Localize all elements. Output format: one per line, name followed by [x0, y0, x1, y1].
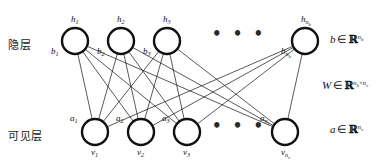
label-vn-bias: anv — [260, 113, 270, 123]
annotation-weights: W∈ℝnh×nv — [322, 79, 368, 92]
edge-h1-vn — [87, 46, 273, 127]
edge-h2-vn — [132, 47, 273, 125]
hidden-layer-ellipsis: • • • — [212, 27, 266, 42]
real-set-symbol: ℝ — [349, 123, 358, 136]
visible-node-v1[interactable] — [82, 119, 108, 145]
label-vn-bottom: vnv — [281, 147, 290, 157]
annotation-variable: b — [330, 33, 336, 45]
element-of-icon: ∈ — [336, 123, 349, 135]
element-of-icon: ∈ — [331, 79, 344, 91]
label-h3-top: h3 — [163, 14, 171, 24]
annotation-variable: W — [322, 79, 331, 91]
visible-node-v2[interactable] — [128, 119, 154, 145]
real-set-symbol: ℝ — [344, 79, 353, 92]
label-hn-bias: bnh — [281, 46, 291, 56]
annotation-variable: a — [330, 123, 336, 135]
hidden-layer-name: 隐层 — [8, 36, 31, 52]
label-v1-bottom: v1 — [91, 147, 98, 157]
label-h2-bias: b2 — [97, 46, 105, 56]
hidden-node-h3[interactable] — [154, 28, 180, 54]
edge-hn-v2 — [152, 47, 293, 125]
edge-hn-vn — [288, 54, 302, 120]
visible-layer-name: 可见层 — [8, 127, 43, 143]
visible-node-v3[interactable] — [174, 119, 200, 145]
annotation-bias-visible: a∈ℝnv — [330, 123, 363, 136]
real-set-symbol: ℝ — [349, 33, 358, 46]
label-v2-bias: a2 — [116, 113, 124, 123]
edge-h2-v1 — [99, 54, 118, 120]
label-h2-top: h2 — [117, 14, 125, 24]
label-hn-top: hnh — [301, 14, 311, 24]
visible-layer-ellipsis: • • • — [212, 119, 266, 134]
edge-h1-v1 — [78, 54, 92, 120]
rbm-diagram-figure: 隐层 可见层 • • • • • • h1b1h2b2h3b3hnhbnhv1a… — [0, 0, 390, 165]
label-v3-bias: a3 — [162, 113, 170, 123]
label-h1-bias: b1 — [51, 46, 59, 56]
element-of-icon: ∈ — [336, 33, 349, 45]
label-v2-bottom: v2 — [137, 147, 144, 157]
visible-node-vn[interactable] — [272, 119, 298, 145]
hidden-node-h1[interactable] — [62, 28, 88, 54]
label-h1-top: h1 — [71, 14, 79, 24]
hidden-node-h2[interactable] — [108, 28, 134, 54]
edge-h3-v1 — [103, 51, 159, 122]
hidden-node-hn[interactable] — [292, 28, 318, 54]
edge-hn-v3 — [197, 49, 294, 124]
label-v1-bias: a1 — [70, 113, 78, 123]
label-v3-bottom: v3 — [183, 147, 190, 157]
label-h3-bias: b3 — [143, 46, 151, 56]
annotation-bias-hidden: b∈ℝnh — [330, 33, 363, 46]
